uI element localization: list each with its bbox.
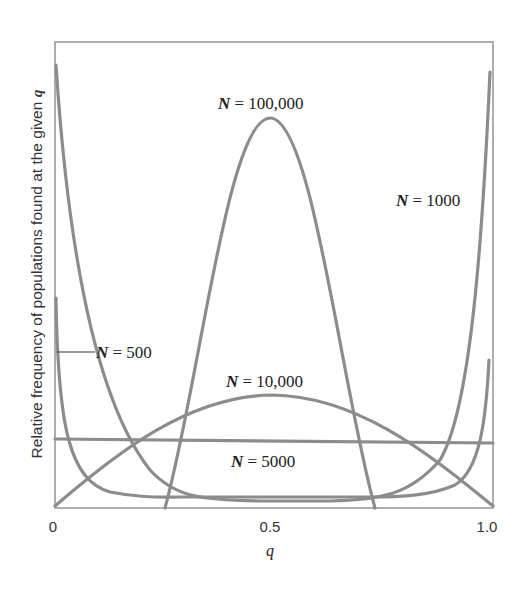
x-tick-0: 0 xyxy=(49,518,57,535)
label-n100000: N = 100,000 xyxy=(217,94,304,113)
curve-n10000 xyxy=(55,395,493,506)
label-n10000: N = 10,000 xyxy=(225,372,303,391)
x-axis-label: q xyxy=(266,542,274,560)
curve-n5000 xyxy=(55,439,493,443)
curve-n1000 xyxy=(56,65,490,501)
y-axis-label: Relative frequency of populations found … xyxy=(28,89,45,458)
label-n5000: N = 5000 xyxy=(230,452,295,471)
curve-n100000 xyxy=(165,118,375,508)
x-tick-1-0: 1.0 xyxy=(477,518,498,535)
label-n500: N = 500 xyxy=(95,343,152,362)
x-tick-0-5: 0.5 xyxy=(260,518,281,535)
label-n1000: N = 1000 xyxy=(395,191,460,210)
population-frequency-chart: N = 100,000 N = 1000 N = 500 N = 10,000 … xyxy=(0,0,531,607)
